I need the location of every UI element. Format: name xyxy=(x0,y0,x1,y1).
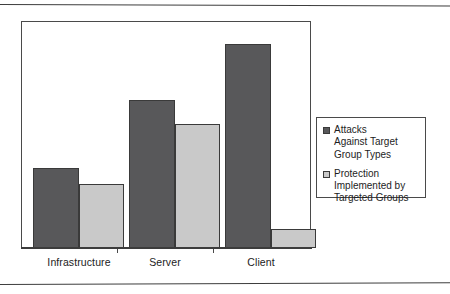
x-axis-line xyxy=(21,247,312,249)
legend-entry-protection: Protection Implemented by Targeted Group… xyxy=(323,168,420,205)
bar-server-protection xyxy=(175,124,220,248)
bar-client-attacks xyxy=(225,44,271,248)
page-rule-bottom xyxy=(0,282,450,285)
bar-client-protection xyxy=(271,229,316,248)
legend-label-attacks: Attacks Against Target Group Types xyxy=(334,124,398,161)
x-axis-tick-2 xyxy=(213,249,214,253)
bar-infrastructure-protection xyxy=(79,184,124,248)
x-axis-label-client: Client xyxy=(215,256,307,268)
legend-entry-attacks: Attacks Against Target Group Types xyxy=(323,124,420,161)
x-axis-tick-1 xyxy=(117,249,118,253)
page-rule-top xyxy=(0,4,450,6)
plot-area xyxy=(22,22,310,248)
chart-legend: Attacks Against Target Group Types Prote… xyxy=(316,117,426,198)
light-gray-swatch-icon xyxy=(323,171,330,178)
bar-server-attacks xyxy=(129,100,175,248)
dark-gray-swatch-icon xyxy=(323,127,330,134)
x-axis-label-server: Server xyxy=(119,256,211,268)
chart-page: Infrastructure Server Client Attacks Aga… xyxy=(0,0,450,294)
legend-label-protection: Protection Implemented by Targeted Group… xyxy=(334,168,409,205)
bar-infrastructure-attacks xyxy=(33,168,79,248)
